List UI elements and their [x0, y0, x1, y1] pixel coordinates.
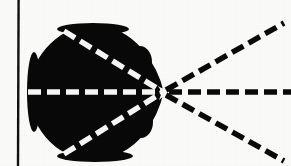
vertical-reference-line [18, 0, 19, 166]
diagram-canvas [0, 0, 291, 166]
ray-diagram-figure [0, 0, 291, 166]
vertex-point [160, 89, 167, 96]
